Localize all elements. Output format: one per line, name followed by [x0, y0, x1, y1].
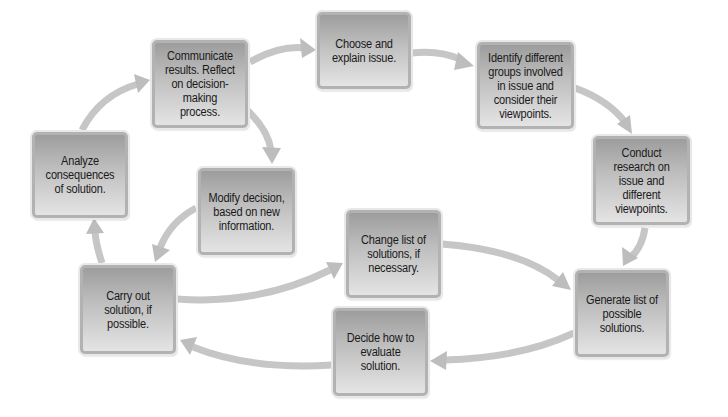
node-research-label: Conduct research on issue and different …	[601, 146, 681, 216]
node-change-label: Change list of solutions, if necessary.	[354, 233, 432, 275]
node-carry: Carry out solution, if possible.	[80, 265, 176, 354]
node-analyze-label: Analyze consequences of solution.	[40, 154, 119, 196]
node-modify-label: Modify decision, based on new informatio…	[206, 191, 286, 233]
arrow-carry-to-change	[177, 270, 330, 300]
node-decide: Decide how to evaluate solution.	[333, 308, 428, 396]
arrow-communicate-to-modify	[247, 110, 271, 150]
arrow-analyze-to-communicate	[82, 84, 138, 130]
node-choose-label: Choose and explain issue.	[325, 37, 402, 65]
node-communicate: Communicate results. Reflect on decision…	[152, 40, 248, 128]
node-change: Change list of solutions, if necessary.	[346, 210, 441, 298]
node-generate: Generate list of possible solutions.	[575, 270, 669, 357]
node-generate-label: Generate list of possible solutions.	[583, 293, 660, 335]
arrow-generate-to-decide	[445, 333, 574, 360]
node-communicate-label: Communicate results. Reflect on decision…	[160, 49, 239, 119]
node-modify: Modify decision, based on new informatio…	[198, 168, 295, 255]
arrow-change-to-generate	[442, 244, 558, 280]
node-analyze: Analyze consequences of solution.	[32, 132, 128, 218]
node-identify-label: Identify different groups involved in is…	[485, 51, 565, 121]
arrow-carry-to-analyze	[95, 232, 102, 263]
node-identify: Identify different groups involved in is…	[477, 42, 574, 129]
node-choose: Choose and explain issue.	[317, 12, 411, 89]
node-decide-label: Decide how to evaluate solution.	[341, 331, 419, 373]
arrow-choose-to-identify	[412, 52, 462, 60]
arrow-decide-to-carry	[193, 347, 332, 366]
arrow-identify-to-research	[575, 88, 625, 122]
arrow-communicate-to-choose	[250, 48, 305, 62]
arrow-research-to-generate	[630, 228, 645, 258]
node-research: Conduct research on issue and different …	[593, 136, 690, 225]
node-carry-label: Carry out solution, if possible.	[88, 289, 167, 331]
arrow-modify-to-carry	[160, 208, 196, 248]
